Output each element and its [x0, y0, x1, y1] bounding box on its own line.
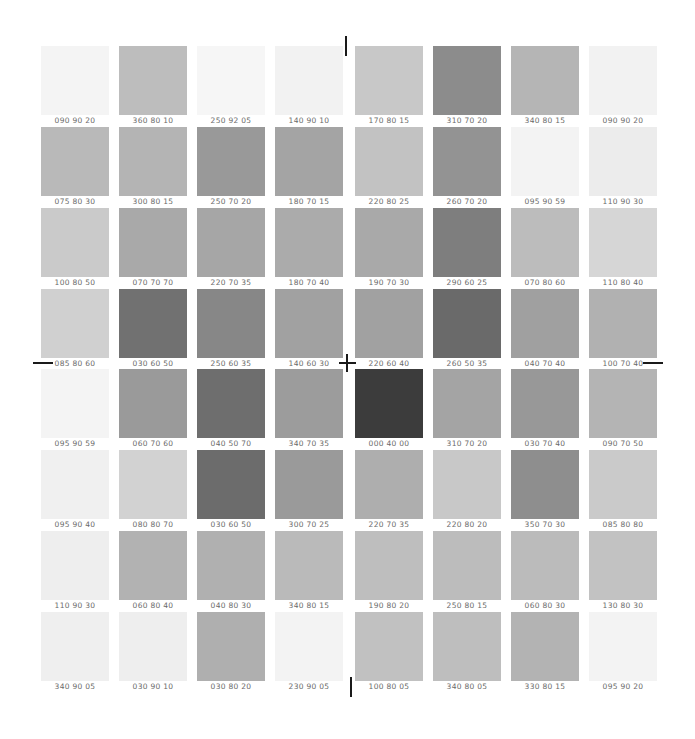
swatch-label: 090 70 50: [583, 439, 663, 448]
swatch-label: 180 70 15: [269, 197, 349, 206]
color-swatch: [41, 369, 109, 438]
color-swatch: [197, 289, 265, 358]
swatch-cell: 030 60 50: [119, 289, 187, 370]
swatch-cell: 100 80 50: [41, 208, 109, 289]
swatch-label: 340 80 15: [269, 601, 349, 610]
color-swatch: [41, 289, 109, 358]
color-swatch: [433, 612, 501, 681]
color-swatch: [119, 450, 187, 519]
registration-mark-top: [345, 36, 347, 56]
swatch-cell: 330 80 15: [511, 612, 579, 693]
color-swatch: [119, 531, 187, 600]
color-swatch: [589, 289, 657, 358]
color-swatch: [589, 127, 657, 196]
swatch-cell: 340 80 15: [275, 531, 343, 612]
swatch-cell: 090 90 20: [589, 46, 657, 127]
color-swatch: [275, 612, 343, 681]
swatch-cell: 040 70 40: [511, 289, 579, 370]
color-swatch: [589, 531, 657, 600]
swatch-cell: 075 80 30: [41, 127, 109, 208]
swatch-cell: 030 80 20: [197, 612, 265, 693]
swatch-label: 230 90 05: [269, 682, 349, 691]
swatch-label: 070 70 70: [113, 278, 193, 287]
swatch-label: 250 60 35: [191, 359, 271, 368]
swatch-cell: 310 70 20: [433, 369, 501, 450]
swatch-cell: 100 70 40: [589, 289, 657, 370]
swatch-label: 340 80 15: [505, 116, 585, 125]
swatch-label: 360 80 10: [113, 116, 193, 125]
swatch-label: 000 40 00: [349, 439, 429, 448]
swatch-cell: 300 70 25: [275, 450, 343, 531]
registration-mark-right: [643, 362, 663, 364]
swatch-grid: 090 90 20360 80 10250 92 05140 90 10170 …: [0, 0, 695, 739]
registration-mark-center-h: [339, 362, 356, 364]
swatch-label: 250 70 20: [191, 197, 271, 206]
color-swatch: [589, 612, 657, 681]
color-swatch: [355, 450, 423, 519]
color-swatch: [197, 46, 265, 115]
color-swatch: [433, 531, 501, 600]
swatch-label: 250 92 05: [191, 116, 271, 125]
color-swatch: [41, 46, 109, 115]
color-swatch: [41, 531, 109, 600]
color-swatch: [433, 46, 501, 115]
swatch-cell: 085 80 80: [589, 450, 657, 531]
registration-mark-bottom: [350, 677, 352, 697]
swatch-cell: 140 90 10: [275, 46, 343, 127]
swatch-label: 060 80 40: [113, 601, 193, 610]
color-swatch: [275, 127, 343, 196]
swatch-label: 085 80 60: [35, 359, 115, 368]
swatch-label: 310 70 20: [427, 439, 507, 448]
swatch-cell: 060 70 60: [119, 369, 187, 450]
swatch-cell: 300 80 15: [119, 127, 187, 208]
swatch-cell: 260 50 35: [433, 289, 501, 370]
swatch-cell: 030 90 10: [119, 612, 187, 693]
swatch-cell: 230 90 05: [275, 612, 343, 693]
swatch-cell: 060 80 40: [119, 531, 187, 612]
swatch-label: 260 50 35: [427, 359, 507, 368]
swatch-cell: 190 80 20: [355, 531, 423, 612]
swatch-cell: 220 70 35: [355, 450, 423, 531]
color-swatch: [511, 369, 579, 438]
swatch-label: 100 80 05: [349, 682, 429, 691]
swatch-cell: 340 70 35: [275, 369, 343, 450]
swatch-cell: 060 80 30: [511, 531, 579, 612]
color-swatch: [197, 369, 265, 438]
swatch-cell: 110 80 40: [589, 208, 657, 289]
color-swatch: [589, 46, 657, 115]
swatch-cell: 170 80 15: [355, 46, 423, 127]
swatch-label: 220 70 35: [191, 278, 271, 287]
color-swatch: [433, 208, 501, 277]
swatch-label: 290 60 25: [427, 278, 507, 287]
color-swatch: [119, 289, 187, 358]
swatch-label: 180 70 40: [269, 278, 349, 287]
swatch-cell: 030 70 40: [511, 369, 579, 450]
swatch-label: 130 80 30: [583, 601, 663, 610]
swatch-cell: 250 60 35: [197, 289, 265, 370]
swatch-cell: 090 90 20: [41, 46, 109, 127]
swatch-cell: 095 90 20: [589, 612, 657, 693]
swatch-label: 220 80 20: [427, 520, 507, 529]
swatch-label: 090 90 20: [35, 116, 115, 125]
swatch-label: 030 60 50: [113, 359, 193, 368]
color-swatch: [119, 127, 187, 196]
swatch-label: 040 80 30: [191, 601, 271, 610]
swatch-cell: 220 80 25: [355, 127, 423, 208]
swatch-cell: 350 70 30: [511, 450, 579, 531]
swatch-label: 220 60 40: [349, 359, 429, 368]
color-swatch: [511, 612, 579, 681]
swatch-label: 070 80 60: [505, 278, 585, 287]
swatch-label: 350 70 30: [505, 520, 585, 529]
swatch-label: 110 80 40: [583, 278, 663, 287]
swatch-cell: 040 80 30: [197, 531, 265, 612]
color-swatch: [511, 46, 579, 115]
swatch-label: 030 90 10: [113, 682, 193, 691]
swatch-cell: 090 70 50: [589, 369, 657, 450]
swatch-cell: 250 70 20: [197, 127, 265, 208]
swatch-cell: 310 70 20: [433, 46, 501, 127]
swatch-label: 110 90 30: [35, 601, 115, 610]
swatch-cell: 095 90 59: [511, 127, 579, 208]
color-swatch: [275, 208, 343, 277]
swatch-label: 300 70 25: [269, 520, 349, 529]
color-swatch: [589, 208, 657, 277]
